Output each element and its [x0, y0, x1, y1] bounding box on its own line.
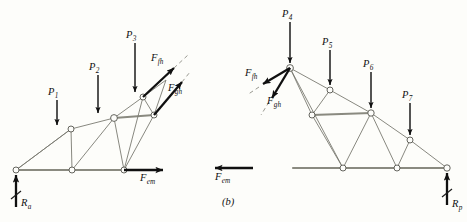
- truss-free-body-figure: P1 P2 P3 Ffh Fgh Fem Ra P4 P5 P6 P7 Ffh …: [0, 0, 467, 222]
- load-label-p6: P6: [363, 58, 373, 72]
- load-label-p5: P5: [322, 36, 332, 50]
- force-label-fh-right: Ffh: [245, 67, 258, 81]
- load-label-p2: P2: [89, 61, 99, 75]
- figure-caption: (b): [222, 196, 234, 207]
- left-truss-members: [16, 80, 166, 170]
- right-support-reaction: [442, 173, 452, 205]
- load-label-p4: P4: [282, 8, 292, 22]
- load-label-p1: P1: [48, 86, 58, 100]
- force-label-gh-left: Fgh: [168, 82, 182, 96]
- left-support-reaction: [11, 175, 21, 207]
- force-label-em-left: Fem: [140, 172, 155, 186]
- force-label-gh-right: Fgh: [267, 95, 281, 109]
- load-label-p7: P7: [402, 89, 412, 103]
- reaction-label-rp: Rp: [452, 198, 462, 212]
- right-force-arrows: [215, 68, 290, 168]
- left-truss-joints: [13, 94, 157, 173]
- force-label-em-right: Fem: [215, 171, 230, 185]
- reaction-label-ra: Ra: [21, 197, 31, 211]
- right-load-arrows: [290, 22, 410, 135]
- left-load-arrows: [57, 43, 135, 125]
- load-label-p3: P3: [126, 29, 136, 43]
- force-label-fh-left: Ffh: [151, 52, 164, 66]
